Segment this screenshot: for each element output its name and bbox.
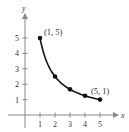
axes: xy bbox=[8, 4, 125, 128]
data-point bbox=[38, 36, 43, 41]
y-tick-label: 4 bbox=[15, 49, 19, 58]
x-tick-label: 1 bbox=[38, 120, 42, 129]
x-tick-label: 4 bbox=[83, 120, 87, 129]
annotations: (1, 5)(5, 1) bbox=[44, 27, 110, 96]
y-axis-label: y bbox=[21, 4, 26, 13]
x-tick-label: 5 bbox=[98, 120, 102, 129]
x-tick-label: 2 bbox=[53, 120, 57, 129]
data-point bbox=[83, 93, 88, 98]
data-point bbox=[68, 87, 73, 92]
y-tick-label: 5 bbox=[15, 34, 19, 43]
chart: xy 1234512345 (1, 5)(5, 1) bbox=[0, 0, 129, 132]
y-tick-label: 3 bbox=[15, 65, 19, 74]
annotation-start-point: (1, 5) bbox=[44, 27, 63, 37]
y-tick-label: 1 bbox=[15, 96, 19, 105]
annotation-end-point: (5, 1) bbox=[91, 86, 110, 96]
data-point bbox=[53, 74, 58, 79]
x-tick-label: 3 bbox=[68, 120, 72, 129]
y-tick-label: 2 bbox=[15, 80, 19, 89]
data-point bbox=[98, 97, 103, 102]
x-axis-label: x bbox=[120, 111, 125, 120]
